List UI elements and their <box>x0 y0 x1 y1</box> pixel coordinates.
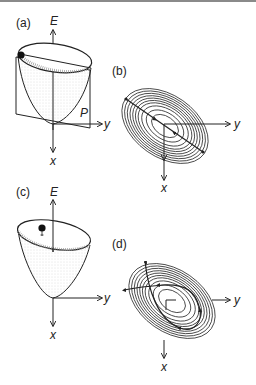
panel-d-axis-y-label: y <box>233 293 241 307</box>
contour-lines-d <box>115 248 229 354</box>
panel-d: (d) y x <box>112 237 241 374</box>
plane-p-label: P <box>80 106 88 120</box>
panel-b: (b) y x <box>108 64 241 195</box>
panel-a-label: (a) <box>16 16 31 30</box>
panel-c-axis-e-label: E <box>50 185 59 199</box>
panel-a-axis-x-label: x <box>49 154 57 168</box>
panel-b-axis-y-label: y <box>233 117 241 131</box>
panel-b-axis-x-label: x <box>160 181 168 195</box>
ball-icon <box>38 224 45 231</box>
panel-a: (a) E P y x <box>16 14 111 168</box>
panel-c-axis-x-label: x <box>49 328 57 342</box>
figure-canvas: (a) E P y x (b) <box>0 0 256 385</box>
panel-c-axis-y-label: y <box>103 291 111 305</box>
panel-c: (c) E y x <box>15 185 111 342</box>
ball-icon <box>17 51 24 58</box>
panel-d-label: (d) <box>112 237 127 251</box>
panel-c-label: (c) <box>16 185 30 199</box>
panel-d-axis-x-label: x <box>160 360 168 374</box>
panel-a-axis-e-label: E <box>50 14 59 28</box>
panel-a-axis-y-label: y <box>103 117 111 131</box>
panel-b-label: (b) <box>112 64 127 78</box>
